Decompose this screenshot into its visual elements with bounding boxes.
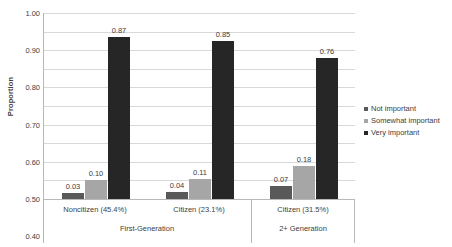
bar: [270, 186, 292, 199]
bar: [316, 58, 338, 199]
x-group-label: 2+ Generation: [279, 224, 327, 233]
x-category-label: Citizen (23.1%): [173, 205, 224, 214]
bars-layer: 0.030.100.870.040.110.850.070.180.76: [44, 13, 355, 199]
legend-item[interactable]: Not important: [364, 103, 440, 114]
x-group-label: First-Generation: [120, 224, 174, 233]
bar: [189, 179, 211, 199]
bar: [166, 192, 188, 199]
legend-swatch-icon: [364, 107, 368, 111]
bar-value-label: 0.85: [216, 30, 231, 39]
legend-item[interactable]: Somewhat important: [364, 115, 440, 126]
y-tick-label: 0.70: [25, 120, 40, 129]
bar-value-label: 0.04: [170, 181, 185, 190]
bar-value-label: 0.18: [297, 155, 312, 164]
bar-chart: Proportion 1.000.900.800.700.600.500.400…: [0, 0, 452, 247]
group-separator: [43, 199, 44, 243]
group-separator: [354, 199, 355, 243]
y-tick-label: 0.60: [25, 157, 40, 166]
bar-value-label: 0.07: [274, 175, 289, 184]
bar: [293, 166, 315, 199]
legend-label: Not important: [371, 104, 416, 113]
x-axis: Noncitizen (45.4%)Citizen (23.1%)Citizen…: [43, 199, 355, 247]
bar-value-label: 0.03: [66, 182, 81, 191]
bar: [85, 180, 107, 199]
bar-value-label: 0.10: [89, 169, 104, 178]
x-category-label: Noncitizen (45.4%): [63, 205, 126, 214]
group-separator: [251, 199, 252, 243]
chart-legend: Not importantSomewhat importantVery impo…: [364, 103, 440, 139]
legend-label: Somewhat important: [371, 116, 440, 125]
y-tick-label: 0.50: [25, 195, 40, 204]
bar: [108, 37, 130, 199]
legend-item[interactable]: Very important: [364, 127, 440, 138]
y-axis-title: Proportion: [6, 62, 15, 132]
legend-swatch-icon: [364, 119, 368, 123]
y-tick-label: 0.80: [25, 83, 40, 92]
y-tick-label: 0.40: [25, 232, 40, 241]
x-category-label: Citizen (31.5%): [277, 205, 328, 214]
bar: [212, 41, 234, 199]
y-tick-label: 0.90: [25, 46, 40, 55]
legend-swatch-icon: [364, 131, 368, 135]
bar-value-label: 0.11: [193, 168, 207, 177]
y-tick-label: 1.00: [25, 9, 40, 18]
legend-label: Very important: [371, 128, 419, 137]
bar-value-label: 0.76: [320, 47, 335, 56]
bar-value-label: 0.87: [112, 26, 127, 35]
plot-area: 1.000.900.800.700.600.500.400.300.200.10…: [43, 13, 355, 199]
